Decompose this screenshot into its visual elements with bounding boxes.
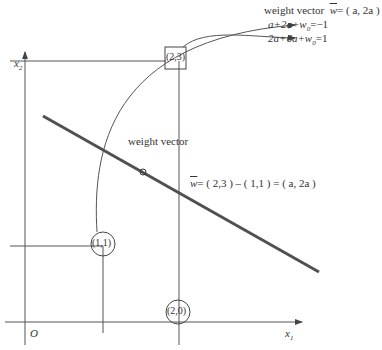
equation-2: 2a+6a+w0=1 [268,33,327,47]
point-1-1-label: (1,1) [92,238,111,248]
y-axis-label: x2 [14,58,22,72]
weight-vector-label: weight vector [128,136,188,147]
diagram-canvas [0,0,382,350]
origin-label: O [30,328,38,339]
vector-equation: w= ( 2,3 ) – ( 1,1 ) = ( a, 2a ) [190,178,316,189]
top-annotation-title: weight vector w= ( a, 2a ) [264,5,380,16]
point-2-3-label: (2,3) [166,52,185,62]
x-axis-label: x1 [285,328,293,342]
point-2-0-label: (2,0) [167,306,186,316]
